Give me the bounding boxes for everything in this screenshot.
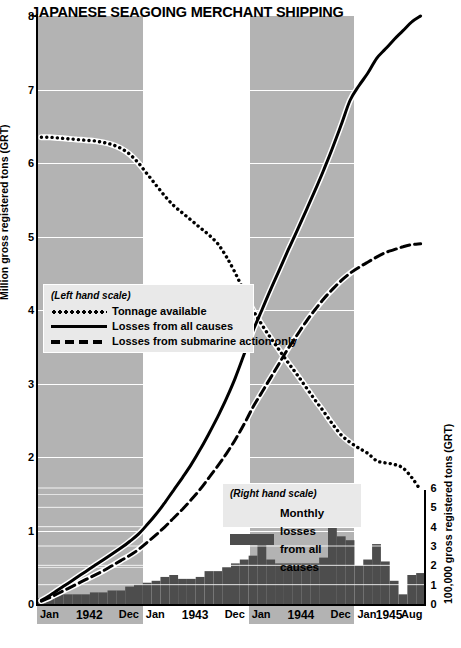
bar-1942-12	[134, 585, 143, 604]
bar-1942-10	[116, 590, 125, 604]
legend-item-label: Tonnage available	[112, 305, 207, 317]
right-axis-tick-6: 6	[428, 483, 439, 493]
right-y-axis: 100,000 gross registered tons (GRT) 0123…	[428, 0, 461, 648]
bar-1943-09	[213, 571, 222, 604]
left-axis-tick-2: 2	[8, 452, 34, 462]
right-axis-line	[424, 490, 426, 606]
legend-right-scale: (Right hand scale) Monthly losses from a…	[222, 483, 362, 528]
bar-1942-09	[108, 590, 117, 604]
x-tick-end-1943: Dec	[225, 608, 245, 620]
x-tick-start-1944: Jan	[252, 608, 271, 620]
legend-item-tonnage: Tonnage available	[51, 305, 246, 317]
legend-left-scale: (Left hand scale) Tonnage available Loss…	[43, 284, 254, 353]
left-axis-tick-6: 6	[8, 158, 34, 168]
x-axis-year-1942: 1942	[76, 608, 103, 622]
right-axis-tick-3: 3	[428, 541, 439, 551]
left-axis-tick-1: 1	[8, 526, 34, 536]
bar-1942-05	[72, 594, 81, 604]
x-axis-year-1944: 1944	[288, 608, 315, 622]
legend-left-header: (Left hand scale)	[51, 290, 246, 301]
bar-1943-06	[187, 579, 196, 604]
bar-1943-04	[169, 575, 178, 604]
legend-right-header: (Right hand scale)	[230, 488, 354, 499]
x-tick-start-1945: Jan	[357, 608, 376, 620]
bar-1945-07	[407, 575, 416, 604]
dashed-line-swatch-icon	[51, 337, 107, 346]
bar-1945-02	[363, 560, 372, 604]
right-axis-tick-2: 2	[428, 560, 439, 570]
bar-1945-04	[381, 561, 390, 604]
dotted-line-swatch-icon	[51, 307, 107, 316]
legend-item-all-causes: Losses from all causes	[51, 320, 246, 332]
x-axis-year-1945: 1945	[376, 608, 403, 622]
bar-swatch-icon	[230, 534, 274, 545]
x-axis-year-1943: 1943	[182, 608, 209, 622]
x-tick-start-1943: Jan	[146, 608, 165, 620]
chart-root: Million gross registered tons (GRT) 0123…	[0, 0, 461, 648]
legend-item-label: Losses from all causes	[112, 320, 233, 332]
legend-item-submarine: Losses from submarine action only	[51, 335, 246, 347]
bar-1943-05	[178, 579, 187, 604]
bar-1942-04	[63, 594, 72, 604]
right-axis-title: 100,000 gross registered tons (GRT)	[442, 424, 454, 604]
left-axis-line	[36, 14, 38, 606]
bar-1943-01	[143, 583, 152, 604]
legend-item-label-line2: from all causes	[280, 543, 322, 573]
bottom-x-axis: Jan1942DecJan1943DecJan1944DecJan1945Aug	[0, 606, 461, 628]
right-axis-tick-4: 4	[428, 522, 439, 532]
x-tick-end-1944: Dec	[330, 608, 350, 620]
bar-1943-03	[160, 577, 169, 604]
left-y-axis: Million gross registered tons (GRT) 0123…	[0, 0, 34, 648]
bar-1942-11	[125, 587, 134, 604]
solid-line-swatch-icon	[51, 322, 107, 331]
legend-item-label-line1: Monthly losses	[280, 507, 324, 537]
x-tick-end-1942: Dec	[119, 608, 139, 620]
x-tick-end-1945: Aug	[401, 608, 422, 620]
left-axis-tick-5: 5	[8, 232, 34, 242]
legend-item-label: Losses from submarine action only	[112, 335, 297, 347]
bar-1945-06	[399, 594, 408, 604]
left-axis-tick-4: 4	[8, 305, 34, 315]
bar-1943-07	[196, 577, 205, 604]
bar-1943-08	[205, 571, 214, 604]
legend-item-monthly-losses: Monthly losses from all causes	[230, 503, 354, 575]
x-tick-start-1942: Jan	[40, 608, 59, 620]
bar-1945-03	[372, 544, 381, 604]
page-title: JAPANESE SEAGOING MERCHANT SHIPPING	[31, 4, 344, 20]
bar-1942-06	[81, 594, 90, 604]
right-axis-tick-5: 5	[428, 502, 439, 512]
bar-1942-07	[90, 592, 99, 604]
left-axis-title: Million gross registered tons (GRT)	[0, 124, 10, 300]
bar-1942-08	[99, 592, 108, 604]
right-axis-tick-1: 1	[428, 580, 439, 590]
left-axis-tick-7: 7	[8, 85, 34, 95]
left-axis-tick-3: 3	[8, 379, 34, 389]
